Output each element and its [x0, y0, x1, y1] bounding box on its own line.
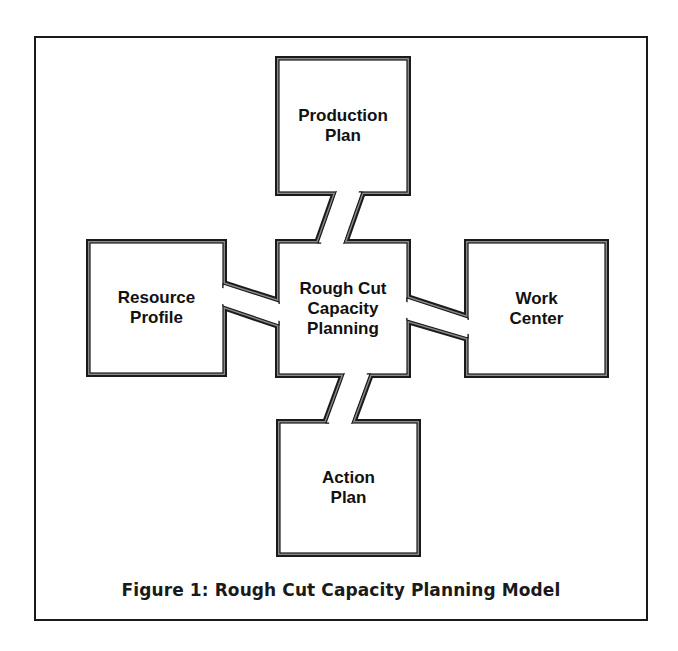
node-label-line: Center — [510, 309, 564, 329]
node-label-line: Rough Cut — [300, 279, 387, 299]
figure-caption: Figure 1: Rough Cut Capacity Planning Mo… — [34, 580, 648, 600]
node-resource-profile: Resource Profile — [90, 243, 223, 373]
node-label-line: Plan — [331, 488, 367, 508]
node-label-line: Planning — [307, 319, 379, 339]
node-label-line: Plan — [325, 126, 361, 146]
node-label-line: Resource — [118, 288, 195, 308]
node-label-line: Profile — [130, 308, 183, 328]
node-label-line: Work — [515, 289, 557, 309]
node-action-plan: Action Plan — [280, 423, 417, 553]
node-label-line: Action — [322, 468, 375, 488]
node-label-line: Capacity — [308, 299, 379, 319]
node-label-line: Production — [298, 106, 388, 126]
node-work-center: Work Center — [468, 243, 605, 374]
node-production-plan: Production Plan — [279, 60, 407, 192]
node-rough-cut-capacity-planning: Rough Cut Capacity Planning — [279, 243, 407, 374]
